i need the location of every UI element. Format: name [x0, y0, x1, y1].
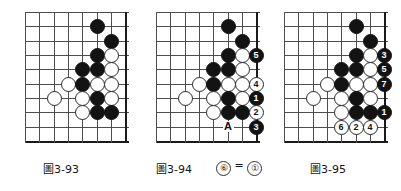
stone-black[interactable]	[221, 19, 236, 34]
stone-black[interactable]	[363, 34, 378, 49]
stone-black[interactable]	[221, 62, 236, 77]
stone-black[interactable]	[206, 77, 221, 92]
stone-white[interactable]	[235, 48, 250, 63]
stone-black[interactable]	[221, 105, 236, 120]
stone-black[interactable]	[75, 77, 90, 92]
stone-white-move-2[interactable]: 2	[249, 105, 264, 120]
grid-line-v	[185, 12, 186, 143]
stone-black[interactable]	[90, 62, 105, 77]
stone-white[interactable]	[206, 105, 221, 120]
grid-line-h	[156, 26, 260, 27]
stone-white[interactable]	[104, 77, 119, 92]
caption-number: 3-93	[54, 163, 79, 176]
figure-3-93: 圖3-93	[0, 0, 134, 191]
stone-black[interactable]	[104, 34, 119, 49]
stone-black[interactable]	[90, 91, 105, 106]
grid-line-bottom-edge	[156, 141, 260, 143]
grid-line-h	[284, 12, 388, 13]
stone-white-move-4[interactable]: 4	[249, 77, 264, 92]
stone-white[interactable]	[104, 62, 119, 77]
stone-white[interactable]	[75, 91, 90, 106]
stone-white[interactable]	[334, 105, 349, 120]
stone-white[interactable]	[178, 91, 193, 106]
stone-black[interactable]	[235, 105, 250, 120]
stone-black[interactable]	[90, 105, 105, 120]
stone-black[interactable]	[334, 77, 349, 92]
move-6-circle: ⑥	[216, 161, 231, 176]
stone-white[interactable]	[61, 77, 76, 92]
stone-move-number: 3	[253, 122, 258, 132]
stone-black[interactable]	[221, 91, 236, 106]
stone-white[interactable]	[75, 105, 90, 120]
stone-move-number: 3	[381, 50, 386, 60]
stone-white[interactable]	[363, 48, 378, 63]
stone-black[interactable]	[206, 62, 221, 77]
stone-black[interactable]	[221, 48, 236, 63]
stone-white[interactable]	[90, 77, 105, 92]
stone-black[interactable]	[334, 62, 349, 77]
stone-white-move-2[interactable]: 2	[349, 120, 364, 135]
stone-move-number: 4	[367, 122, 372, 132]
stone-move-number: 1	[381, 107, 386, 117]
stone-black[interactable]	[235, 34, 250, 49]
stone-black[interactable]	[349, 62, 364, 77]
stone-black[interactable]	[349, 105, 364, 120]
equals-sign: =	[235, 159, 244, 172]
stone-move-number: 5	[253, 50, 258, 60]
stone-white[interactable]	[363, 77, 378, 92]
go-board-3-94: 54123 A	[156, 12, 260, 146]
figure-caption-3-93: 圖3-93	[43, 160, 79, 176]
stone-white[interactable]	[235, 91, 250, 106]
stone-move-number: 2	[253, 107, 258, 117]
stone-black-move-7[interactable]: 7	[377, 77, 392, 92]
grid-line-v	[284, 12, 285, 143]
grid-line-v	[298, 12, 299, 143]
stone-white[interactable]	[235, 62, 250, 77]
stone-black-move-3[interactable]: 3	[249, 120, 264, 135]
grid-line-bottom-edge	[284, 141, 388, 143]
stone-white[interactable]	[363, 91, 378, 106]
stone-white[interactable]	[334, 91, 349, 106]
stone-white[interactable]	[235, 77, 250, 92]
diagram-sheet: 圖3-93 54123 A 圖3-94	[0, 0, 401, 191]
stone-black[interactable]	[104, 105, 119, 120]
go-board-3-93	[25, 12, 129, 146]
caption-prefix: 圖	[43, 163, 54, 176]
stone-black[interactable]	[90, 19, 105, 34]
stone-white[interactable]	[363, 62, 378, 77]
stone-white[interactable]	[320, 77, 335, 92]
stone-white-move-4[interactable]: 4	[363, 120, 378, 135]
stone-black[interactable]	[75, 62, 90, 77]
stone-white[interactable]	[192, 77, 207, 92]
stone-black[interactable]	[349, 48, 364, 63]
grid-line-h	[284, 26, 388, 27]
go-board-3-95: 3571624	[284, 12, 388, 146]
stone-black[interactable]	[90, 48, 105, 63]
stone-white[interactable]	[221, 77, 236, 92]
stone-black[interactable]	[349, 19, 364, 34]
stone-white[interactable]	[47, 91, 62, 106]
stone-white-move-6[interactable]: 6	[334, 120, 349, 135]
grid-line-h	[25, 12, 129, 13]
grid-line-v	[170, 12, 171, 143]
stone-black-move-5[interactable]: 5	[377, 62, 392, 77]
stone-white[interactable]	[104, 91, 119, 106]
stone-black-move-3[interactable]: 3	[377, 48, 392, 63]
stone-white[interactable]	[104, 48, 119, 63]
stone-white[interactable]	[306, 91, 321, 106]
stone-black[interactable]	[349, 91, 364, 106]
stone-black-move-1[interactable]: 1	[249, 91, 264, 106]
stone-black[interactable]	[363, 105, 378, 120]
stone-move-number: 4	[253, 79, 258, 89]
stone-move-number: 7	[381, 79, 386, 89]
stone-black-move-1[interactable]: 1	[377, 105, 392, 120]
stone-white[interactable]	[206, 91, 221, 106]
stone-white[interactable]	[349, 77, 364, 92]
caption-number: 3-95	[321, 163, 346, 176]
stone-move-number: 6	[338, 122, 343, 132]
stone-black-move-5[interactable]: 5	[249, 48, 264, 63]
stone-move-number: 5	[381, 64, 386, 74]
grid-line-h	[25, 127, 129, 128]
grid-line-bottom-edge	[25, 141, 129, 143]
grid-line-h	[156, 127, 260, 128]
